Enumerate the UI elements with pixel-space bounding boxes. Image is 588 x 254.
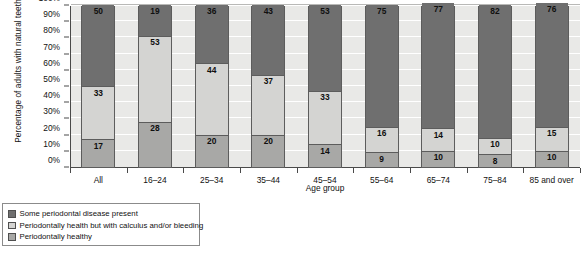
bar-value-label: 53 bbox=[150, 37, 159, 48]
bar-segment: 82 bbox=[479, 5, 511, 138]
bar-value-label: 19 bbox=[150, 5, 159, 16]
bar-value-label: 10 bbox=[547, 152, 556, 163]
bar-group: 91675 bbox=[353, 6, 410, 168]
legend-item: Some periodontal disease present bbox=[8, 208, 194, 220]
bar-segment: 44 bbox=[196, 63, 228, 134]
x-tick-mark bbox=[580, 168, 581, 173]
bar-value-label: 14 bbox=[434, 129, 443, 140]
y-tick-mark bbox=[64, 53, 69, 54]
bar-value-label: 36 bbox=[207, 5, 216, 16]
bar-group: 143353 bbox=[297, 6, 354, 168]
bar-value-label: 37 bbox=[264, 76, 273, 87]
bar-segment: 14 bbox=[422, 128, 454, 151]
bar-value-label: 44 bbox=[207, 64, 216, 75]
x-tick-mark bbox=[240, 168, 241, 173]
bar-group: 204436 bbox=[183, 6, 240, 168]
bar-value-label: 43 bbox=[264, 5, 273, 16]
legend-item: Periodontally health but with calculus a… bbox=[8, 220, 194, 232]
bar-segment: 10 bbox=[422, 151, 454, 167]
legend-label: Periodontally healthy bbox=[20, 232, 92, 241]
legend-swatch-icon bbox=[8, 210, 16, 218]
y-tick-label: 60% bbox=[43, 59, 60, 67]
bar-value-label: 8 bbox=[493, 155, 498, 166]
x-tick-mark bbox=[410, 168, 411, 173]
bar-value-label: 10 bbox=[434, 152, 443, 163]
bar-value-label: 50 bbox=[94, 5, 103, 16]
bar-segment: 77 bbox=[422, 3, 454, 128]
y-tick-mark bbox=[64, 150, 69, 151]
legend-label: Periodontally health but with calculus a… bbox=[20, 221, 204, 230]
bar-segment: 53 bbox=[139, 36, 171, 122]
x-tick-mark bbox=[183, 168, 184, 173]
bar-segment: 36 bbox=[196, 5, 228, 63]
legend-item: Periodontally healthy bbox=[8, 231, 194, 243]
y-tick-mark bbox=[64, 118, 69, 119]
bar-segment: 15 bbox=[536, 127, 568, 151]
y-tick-label: 10% bbox=[43, 140, 60, 148]
bar-value-label: 33 bbox=[320, 92, 329, 103]
bar-segment: 76 bbox=[536, 3, 568, 126]
y-tick-label: 80% bbox=[43, 26, 60, 34]
y-tick-label: 30% bbox=[43, 107, 60, 115]
bar-value-label: 77 bbox=[434, 3, 443, 14]
legend-label: Some periodontal disease present bbox=[20, 209, 138, 218]
bar-segment: 17 bbox=[82, 139, 114, 167]
y-axis-ticks: 0%10%20%30%40%50%60%70%80%90%100% bbox=[0, 6, 70, 168]
bar-value-label: 75 bbox=[377, 5, 386, 16]
bar-segment: 10 bbox=[536, 151, 568, 167]
x-tick-mark bbox=[70, 168, 71, 173]
y-tick-mark bbox=[64, 21, 69, 22]
y-tick-mark bbox=[64, 134, 69, 135]
bar-group: 81082 bbox=[467, 6, 524, 168]
y-tick-mark bbox=[64, 166, 69, 167]
stacked-bar: 203743 bbox=[251, 6, 285, 168]
x-axis-title: Age group bbox=[70, 183, 580, 193]
bar-value-label: 28 bbox=[150, 123, 159, 134]
x-tick-mark bbox=[127, 168, 128, 173]
stacked-bar: 81082 bbox=[478, 6, 512, 168]
y-tick-label: 70% bbox=[43, 43, 60, 51]
y-tick-mark bbox=[64, 37, 69, 38]
bar-segment: 33 bbox=[309, 91, 341, 144]
bar-value-label: 76 bbox=[547, 3, 556, 14]
bar-group: 203743 bbox=[240, 6, 297, 168]
x-tick-mark bbox=[523, 168, 524, 173]
stacked-bar: 173350 bbox=[81, 6, 115, 168]
bar-value-label: 20 bbox=[264, 136, 273, 147]
bar-segment: 8 bbox=[479, 154, 511, 167]
y-tick-label: 0% bbox=[48, 156, 60, 164]
legend-swatch-icon bbox=[8, 233, 16, 241]
legend-swatch-icon bbox=[8, 222, 16, 230]
y-tick-label: 90% bbox=[43, 10, 60, 18]
bar-segment: 10 bbox=[479, 138, 511, 154]
stacked-bar: 204436 bbox=[195, 6, 229, 168]
bar-segment: 19 bbox=[139, 5, 171, 36]
bar-value-label: 16 bbox=[377, 128, 386, 139]
bar-segment: 50 bbox=[82, 5, 114, 86]
bar-value-label: 15 bbox=[547, 128, 556, 139]
x-tick-mark bbox=[297, 168, 298, 173]
y-tick-label: 40% bbox=[43, 91, 60, 99]
stacked-bar: 91675 bbox=[365, 6, 399, 168]
stacked-bar: 143353 bbox=[308, 6, 342, 168]
stacked-bar: 101477 bbox=[421, 6, 455, 168]
bar-value-label: 82 bbox=[490, 5, 499, 16]
bar-segment: 20 bbox=[252, 135, 284, 167]
y-tick-mark bbox=[64, 4, 69, 5]
bar-group: 173350 bbox=[70, 6, 127, 168]
bar-segment: 16 bbox=[366, 127, 398, 153]
bar-segment: 43 bbox=[252, 5, 284, 75]
y-tick-mark bbox=[64, 69, 69, 70]
y-tick-label: 20% bbox=[43, 124, 60, 132]
bar-segment: 28 bbox=[139, 122, 171, 167]
stacked-bar-chart: Percentage of adults with natural teeth … bbox=[0, 0, 588, 254]
bar-segment: 37 bbox=[252, 75, 284, 135]
bar-value-label: 9 bbox=[379, 153, 384, 164]
y-tick-mark bbox=[64, 85, 69, 86]
y-tick-mark bbox=[64, 102, 69, 103]
bar-segment: 14 bbox=[309, 144, 341, 167]
bar-value-label: 17 bbox=[94, 140, 103, 151]
bar-segment: 75 bbox=[366, 5, 398, 127]
x-tick-mark bbox=[353, 168, 354, 173]
bar-value-label: 53 bbox=[320, 5, 329, 16]
